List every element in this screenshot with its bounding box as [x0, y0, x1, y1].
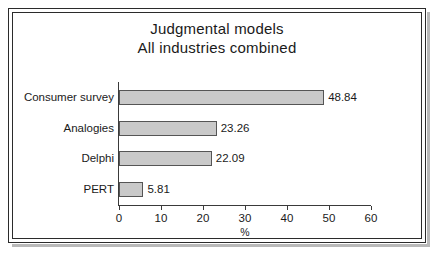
x-axis-tick-label: 10 — [155, 211, 168, 225]
bar — [119, 121, 217, 136]
bar-value-label: 23.26 — [221, 121, 250, 136]
plot-area: Consumer survey48.84Analogies23.26Delphi… — [119, 82, 371, 205]
x-axis-tick-label: 50 — [323, 211, 336, 225]
x-axis-tick-label: 60 — [365, 211, 378, 225]
x-axis-tick-label: 0 — [116, 211, 122, 225]
bar-value-label: 48.84 — [328, 90, 357, 105]
category-label: PERT — [84, 182, 114, 197]
bar — [119, 90, 324, 105]
chart-subtitle: All industries combined — [13, 38, 421, 57]
x-axis-title: % — [240, 226, 249, 239]
category-label: Consumer survey — [24, 90, 114, 105]
x-axis-tick — [119, 206, 120, 210]
frame-shadow-bottom — [12, 244, 430, 247]
bar-value-label: 22.09 — [216, 151, 245, 166]
chart-page: Judgmental models All industries combine… — [0, 0, 442, 259]
bar-row: Analogies23.26 — [119, 121, 371, 136]
bar — [119, 182, 143, 197]
x-axis-tick — [161, 206, 162, 210]
x-axis-tick — [203, 206, 204, 210]
x-axis-tick — [329, 206, 330, 210]
x-axis-tick — [245, 206, 246, 210]
frame-shadow-right — [427, 12, 430, 247]
x-axis-tick — [371, 206, 372, 210]
chart-title-block: Judgmental models All industries combine… — [13, 19, 421, 57]
bar — [119, 151, 212, 166]
bar-chart: Judgmental models All industries combine… — [13, 13, 421, 238]
chart-title: Judgmental models — [13, 19, 421, 38]
x-axis-tick — [287, 206, 288, 210]
category-label: Analogies — [63, 121, 114, 136]
bar-row: PERT5.81 — [119, 182, 371, 197]
bar-row: Delphi22.09 — [119, 151, 371, 166]
x-axis-tick-label: 20 — [197, 211, 210, 225]
x-axis-tick-label: 30 — [239, 211, 252, 225]
x-axis-tick-label: 40 — [281, 211, 294, 225]
bar-value-label: 5.81 — [147, 182, 169, 197]
category-label: Delphi — [81, 151, 114, 166]
bar-row: Consumer survey48.84 — [119, 90, 371, 105]
